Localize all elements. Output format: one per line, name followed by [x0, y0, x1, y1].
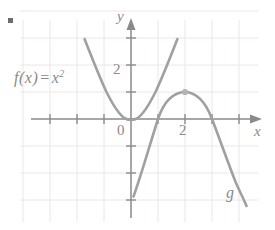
equals-sign-text: = — [38, 69, 52, 86]
function-name-text: f(x) — [14, 69, 38, 86]
axes — [31, 25, 256, 218]
y-axis-label: y — [117, 9, 124, 24]
math-figure: f(x)=x2 y x 0 2 2 g — [0, 0, 275, 230]
x-axis-tick-label-2: 2 — [179, 123, 187, 138]
y-axis-tick-label-2: 2 — [113, 62, 121, 77]
function-exponent-text: 2 — [59, 68, 65, 79]
g-curve-label: g — [226, 185, 234, 201]
y-axis-arrowhead — [127, 18, 136, 30]
g-vertex-point-marker — [182, 89, 188, 95]
x-axis-label: x — [254, 124, 261, 139]
function-equation-label: f(x)=x2 — [14, 69, 65, 86]
origin-label: 0 — [117, 123, 125, 138]
